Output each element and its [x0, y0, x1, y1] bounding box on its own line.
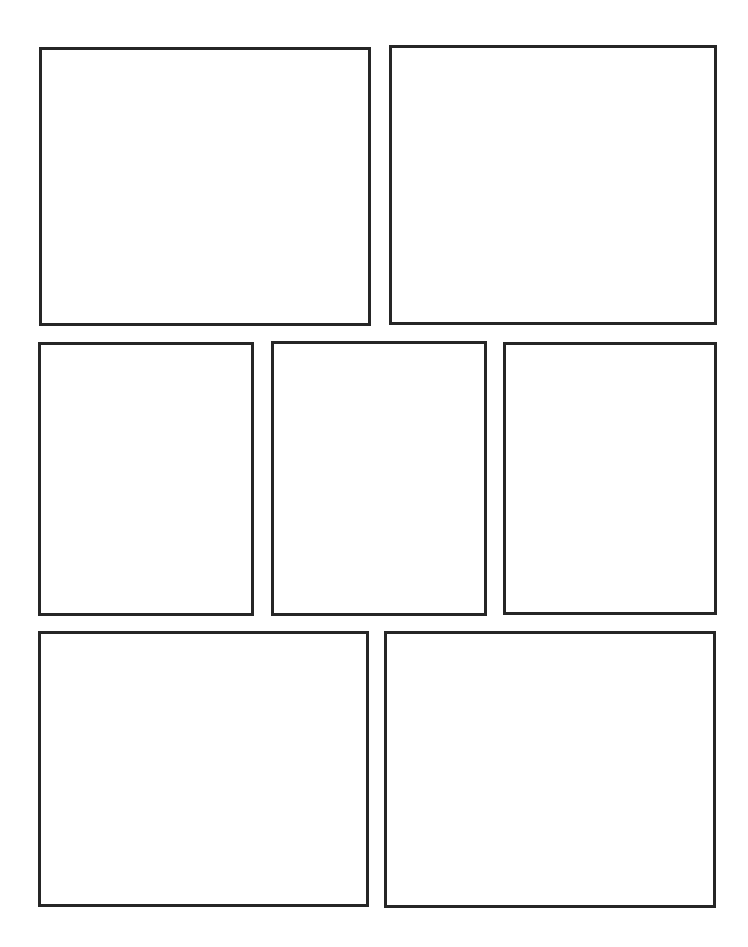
comic-panel[interactable]: [389, 45, 717, 325]
panel-content-area[interactable]: [41, 345, 251, 613]
panel-content-area[interactable]: [506, 345, 714, 612]
comic-panel[interactable]: [503, 342, 717, 615]
comic-panel[interactable]: [38, 631, 369, 907]
comic-page-canvas: [0, 0, 748, 947]
comic-panel[interactable]: [271, 341, 487, 616]
panel-content-area[interactable]: [42, 50, 368, 323]
panel-content-area[interactable]: [387, 634, 713, 905]
panel-content-area[interactable]: [41, 634, 366, 904]
comic-panel[interactable]: [38, 342, 254, 616]
panel-content-area[interactable]: [392, 48, 714, 322]
comic-panel[interactable]: [384, 631, 716, 908]
comic-panel[interactable]: [39, 47, 371, 326]
panel-content-area[interactable]: [274, 344, 484, 613]
